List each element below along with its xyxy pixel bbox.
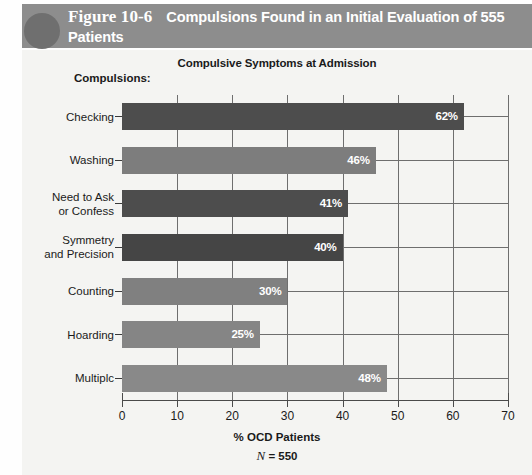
category-label: Checking bbox=[0, 110, 114, 124]
category-label: Washing bbox=[0, 153, 114, 167]
x-axis-tick bbox=[508, 401, 509, 407]
category-tick bbox=[115, 334, 122, 335]
x-axis-tick bbox=[177, 401, 178, 407]
category-label-line: Symmetry bbox=[0, 233, 114, 247]
chart-title: Compulsive Symptoms at Admission bbox=[22, 57, 532, 69]
x-axis-tick-label: 0 bbox=[102, 409, 142, 423]
x-axis-tick-label: 40 bbox=[323, 409, 363, 423]
category-tick bbox=[115, 378, 122, 379]
category-label: Hoarding bbox=[0, 328, 114, 342]
category-axis-title: Compulsions: bbox=[74, 72, 151, 84]
x-axis-tick bbox=[232, 401, 233, 407]
category-tick bbox=[115, 291, 122, 292]
category-label-line: and Precision bbox=[0, 247, 114, 261]
category-label: Multiplc bbox=[0, 371, 114, 385]
figure-page: Figure 10-6Compulsions Found in an Initi… bbox=[0, 0, 532, 475]
category-label-line: Washing bbox=[0, 153, 114, 167]
chart-bar[interactable]: 30% bbox=[122, 278, 287, 305]
header-text-block: Figure 10-6Compulsions Found in an Initi… bbox=[68, 7, 524, 47]
chart-category-row: 62%Checking bbox=[122, 95, 508, 139]
x-axis-tick bbox=[398, 401, 399, 407]
x-axis-tick-label: 60 bbox=[433, 409, 473, 423]
x-axis-tick-label: 50 bbox=[378, 409, 418, 423]
category-label-line: Checking bbox=[0, 110, 114, 124]
chart-bar[interactable]: 46% bbox=[122, 147, 376, 174]
chart-bar[interactable]: 62% bbox=[122, 103, 464, 130]
sample-size-symbol: N bbox=[257, 448, 266, 463]
header-circle-decoration bbox=[24, 13, 60, 49]
x-axis-tick bbox=[453, 401, 454, 407]
sample-size-value: = 550 bbox=[265, 450, 297, 462]
chart-category-row: 41%Need to Askor Confess bbox=[122, 182, 508, 226]
category-label: Need to Askor Confess bbox=[0, 190, 114, 218]
x-axis-line bbox=[122, 400, 508, 401]
x-axis-tick bbox=[343, 401, 344, 407]
category-tick bbox=[115, 160, 122, 161]
category-tick bbox=[115, 116, 122, 117]
category-label-line: or Confess bbox=[0, 204, 114, 218]
category-tick bbox=[115, 203, 122, 204]
chart-category-row: 48%Multiplc bbox=[122, 356, 508, 400]
axis-end-cap-right bbox=[508, 393, 509, 401]
x-axis-tick-label: 20 bbox=[212, 409, 252, 423]
category-label-line: Multiplc bbox=[0, 371, 114, 385]
sample-size-annotation: N = 550 bbox=[22, 448, 532, 464]
chart-panel: Compulsive Symptoms at Admission Compuls… bbox=[22, 50, 532, 475]
gridline-vertical bbox=[508, 95, 509, 400]
category-tick bbox=[115, 247, 122, 248]
category-label-line: Counting bbox=[0, 284, 114, 298]
chart-bar[interactable]: 48% bbox=[122, 365, 387, 392]
bar-value-label: 40% bbox=[314, 234, 336, 261]
chart-bar[interactable]: 40% bbox=[122, 234, 343, 261]
bar-value-label: 25% bbox=[231, 321, 253, 348]
bar-value-label: 41% bbox=[320, 190, 342, 217]
figure-header-banner: Figure 10-6Compulsions Found in an Initi… bbox=[22, 4, 532, 48]
plot-area: 62%Checking46%Washing41%Need to Askor Co… bbox=[122, 95, 508, 400]
figure-number-label: Figure 10-6 bbox=[68, 7, 152, 26]
chart-category-row: 40%Symmetryand Precision bbox=[122, 226, 508, 270]
bar-value-label: 62% bbox=[435, 103, 457, 130]
x-axis-tick-label: 30 bbox=[267, 409, 307, 423]
chart-category-row: 25%Hoarding bbox=[122, 313, 508, 357]
category-label: Counting bbox=[0, 284, 114, 298]
x-axis-tick-label: 70 bbox=[488, 409, 528, 423]
x-axis-tick bbox=[122, 401, 123, 407]
chart-bar[interactable]: 25% bbox=[122, 321, 260, 348]
chart-category-row: 46%Washing bbox=[122, 139, 508, 183]
category-label-line: Hoarding bbox=[0, 328, 114, 342]
chart-bar[interactable]: 41% bbox=[122, 190, 348, 217]
x-axis-tick-label: 10 bbox=[157, 409, 197, 423]
category-label-line: Need to Ask bbox=[0, 190, 114, 204]
x-axis-tick bbox=[287, 401, 288, 407]
chart-category-row: 30%Counting bbox=[122, 269, 508, 313]
bar-value-label: 48% bbox=[358, 365, 380, 392]
bar-value-label: 46% bbox=[347, 147, 369, 174]
bar-value-label: 30% bbox=[259, 278, 281, 305]
category-label: Symmetryand Precision bbox=[0, 233, 114, 261]
x-axis-title: % OCD Patients bbox=[22, 431, 532, 443]
